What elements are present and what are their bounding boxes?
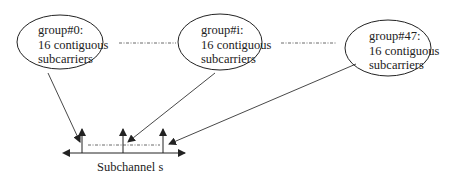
group-47-node: group#47: 16 contiguous subcarriers — [345, 20, 440, 76]
group-0-node: group#0: 16 contiguous subcarriers — [17, 15, 109, 69]
group-47-desc2: subcarriers — [369, 58, 424, 72]
group-i-node: group#i: 16 contiguous subcarriers — [178, 14, 272, 70]
mapping-arrow-group-47 — [169, 64, 356, 144]
mapping-arrow-group-0 — [48, 73, 80, 142]
axis-label: Subchannel s — [97, 160, 163, 174]
group-47-desc: 16 contiguous — [369, 44, 440, 58]
group-0-desc: 16 contiguous — [38, 38, 109, 52]
group-i-title: group#i: — [201, 23, 243, 37]
group-0-title: group#0: — [38, 23, 83, 37]
group-47-title: group#47: — [369, 29, 420, 43]
group-i-desc: 16 contiguous — [201, 38, 272, 52]
group-0-desc2: subcarriers — [38, 52, 93, 66]
group-i-desc2: subcarriers — [201, 52, 256, 66]
subchannel-diagram: group#0: 16 contiguous subcarriers group… — [0, 0, 460, 181]
mapping-arrow-group-i — [128, 73, 215, 142]
